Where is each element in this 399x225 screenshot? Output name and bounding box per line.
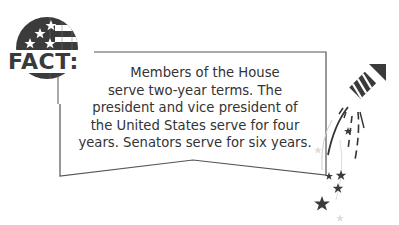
fact-line-2: serve two-year terms. The xyxy=(62,82,328,100)
fact-text: Members of the House serve two-year term… xyxy=(62,64,328,152)
fact-line-5: years. Senators serve for six years. xyxy=(62,134,328,152)
fact-line-3: president and vice president of xyxy=(62,99,328,117)
fact-line-1: Members of the House xyxy=(62,64,328,82)
fact-line-4: the United States serve for four xyxy=(62,117,328,135)
